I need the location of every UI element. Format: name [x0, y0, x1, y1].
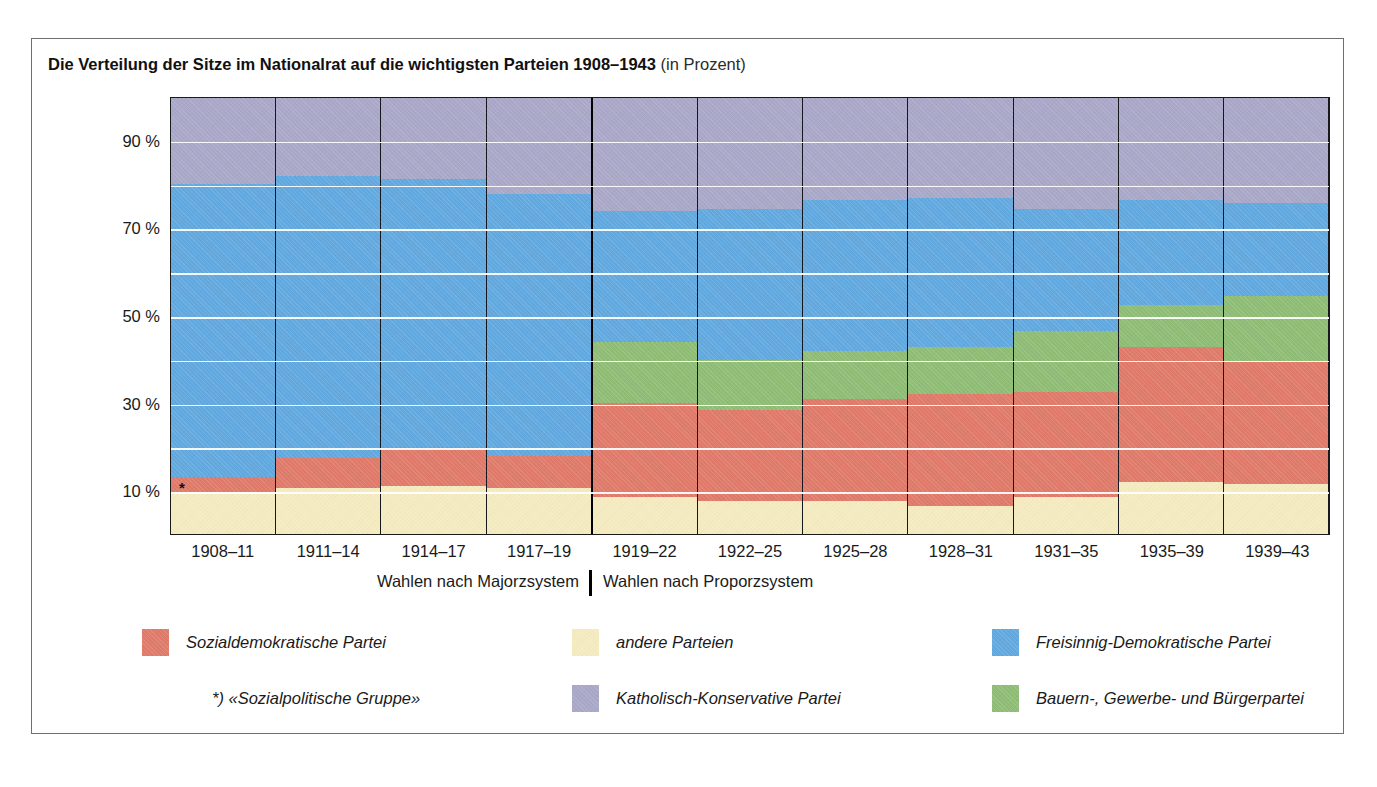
legend-item-andere[interactable]: andere Parteien: [572, 629, 733, 656]
bar-segment-spd: [1014, 392, 1118, 497]
segment-texture: [908, 394, 1012, 505]
bar-segment-andere: [908, 506, 1012, 534]
bar-column-1911-14[interactable]: [276, 98, 381, 534]
segment-texture: [276, 98, 380, 176]
legend-swatch-bgb: [992, 685, 1019, 712]
x-axis-tick-1908-11: 1908–11: [170, 542, 275, 568]
segment-texture: [487, 98, 591, 194]
y-axis: 10 %30 %50 %70 %90 %: [102, 97, 170, 539]
chart-title-unit: (in Prozent): [661, 55, 746, 73]
bar-column-1919-22[interactable]: [593, 98, 698, 534]
segment-texture: [803, 399, 907, 501]
bar-segment-andere: [1014, 497, 1118, 534]
segment-texture: [1119, 98, 1223, 200]
bar-segment-kk: [276, 98, 380, 176]
legend-label-spd: Sozialdemokratische Partei: [186, 633, 386, 652]
bar-column-1914-17[interactable]: [381, 98, 486, 534]
system-captions: Wahlen nach Majorzsystem Wahlen nach Pro…: [170, 572, 1330, 600]
segment-texture: [487, 488, 591, 534]
legend-item-fdp[interactable]: Freisinnig-Demokratische Partei: [992, 629, 1271, 656]
plot-wrapper: 10 %30 %50 %70 %90 % *: [102, 97, 1330, 539]
bar-column-1925-28[interactable]: [803, 98, 908, 534]
bar-column-1922-25[interactable]: [698, 98, 803, 534]
x-axis-tick-1925-28: 1925–28: [803, 542, 908, 568]
segment-texture: [593, 98, 697, 211]
bar-segment-spd: [803, 399, 907, 501]
segment-texture: [1014, 392, 1118, 497]
y-axis-tick-10: 10 %: [122, 482, 160, 501]
bar-segment-bgb: [1014, 331, 1118, 392]
bar-segment-kk: [381, 98, 485, 179]
bar-segment-fdp: [1014, 209, 1118, 331]
bar-segment-fdp: [171, 184, 275, 477]
segment-texture: [698, 209, 802, 359]
segment-texture: [487, 456, 591, 489]
bar-column-1928-31[interactable]: [908, 98, 1013, 534]
bar-segment-andere: [593, 497, 697, 534]
bar-segment-kk: [698, 98, 802, 209]
segment-texture: [171, 477, 275, 492]
x-axis: 1908–111911–141914–171917–191919–221922–…: [170, 542, 1330, 568]
segment-texture: [1224, 362, 1328, 484]
segment-texture: [572, 629, 599, 656]
segment-texture: [1224, 296, 1328, 361]
segment-texture: [698, 98, 802, 209]
bar-segment-spd: [593, 403, 697, 497]
segment-texture: [803, 501, 907, 534]
bar-column-1908-11[interactable]: [171, 98, 276, 534]
segment-texture: [487, 194, 591, 456]
segment-texture: [593, 211, 697, 342]
chart-title: Die Verteilung der Sitze im Nationalrat …: [48, 55, 746, 74]
bar-segment-bgb: [593, 342, 697, 403]
asterisk-marker: *: [179, 480, 185, 495]
segment-texture: [276, 176, 380, 457]
x-axis-tick-1939-43: 1939–43: [1225, 542, 1330, 568]
legend-label-fdp: Freisinnig-Demokratische Partei: [1036, 633, 1271, 652]
bar-segment-spd: [1224, 362, 1328, 484]
segment-texture: [171, 492, 275, 534]
bar-segment-kk: [593, 98, 697, 211]
figure-frame: Die Verteilung der Sitze im Nationalrat …: [31, 38, 1344, 734]
bar-segment-fdp: [1119, 200, 1223, 305]
x-axis-tick-1911-14: 1911–14: [275, 542, 380, 568]
segment-texture: [381, 98, 485, 179]
bar-segment-andere: [487, 488, 591, 534]
segment-texture: [593, 403, 697, 497]
bar-segment-spd: [487, 456, 591, 489]
bar-segment-kk: [1014, 98, 1118, 209]
legend-item-kk[interactable]: Katholisch-Konservative Partei: [572, 685, 841, 712]
bar-segment-spd: [171, 477, 275, 492]
segment-texture: [1119, 482, 1223, 534]
segment-texture: [381, 179, 485, 447]
legend-swatch-spd: [142, 629, 169, 656]
page-text-bleed: [0, 0, 1377, 22]
bar-column-1935-39[interactable]: [1119, 98, 1224, 534]
caption-proporzsystem: Wahlen nach Proporzsystem: [591, 572, 813, 591]
y-axis-tick-90: 90 %: [122, 131, 160, 150]
segment-texture: [803, 200, 907, 350]
legend-item-bgb[interactable]: Bauern-, Gewerbe- und Bürgerpartei: [992, 685, 1304, 712]
x-axis-tick-1928-31: 1928–31: [908, 542, 1013, 568]
bar-segment-andere: [1224, 484, 1328, 534]
segment-texture: [1224, 98, 1328, 203]
segment-texture: [1224, 203, 1328, 297]
legend-swatch-kk: [572, 685, 599, 712]
legend-label-andere: andere Parteien: [616, 633, 733, 652]
bar-segment-spd: [381, 447, 485, 486]
bar-column-1939-43[interactable]: [1224, 98, 1329, 534]
bar-segment-spd: [1119, 347, 1223, 482]
caption-majorzsystem: Wahlen nach Majorzsystem: [170, 572, 591, 591]
bar-segment-kk: [1119, 98, 1223, 200]
x-axis-tick-1917-19: 1917–19: [486, 542, 591, 568]
segment-texture: [908, 198, 1012, 346]
bar-segment-fdp: [698, 209, 802, 359]
legend-item-spd[interactable]: Sozialdemokratische Partei: [142, 629, 386, 656]
bar-column-1931-35[interactable]: [1014, 98, 1119, 534]
bar-column-1917-19[interactable]: [487, 98, 593, 534]
segment-texture: [572, 685, 599, 712]
segment-texture: [803, 351, 907, 399]
segment-texture: [992, 629, 1019, 656]
segment-texture: [1014, 98, 1118, 209]
y-axis-tick-70: 70 %: [122, 219, 160, 238]
bar-segment-andere: [276, 488, 380, 534]
